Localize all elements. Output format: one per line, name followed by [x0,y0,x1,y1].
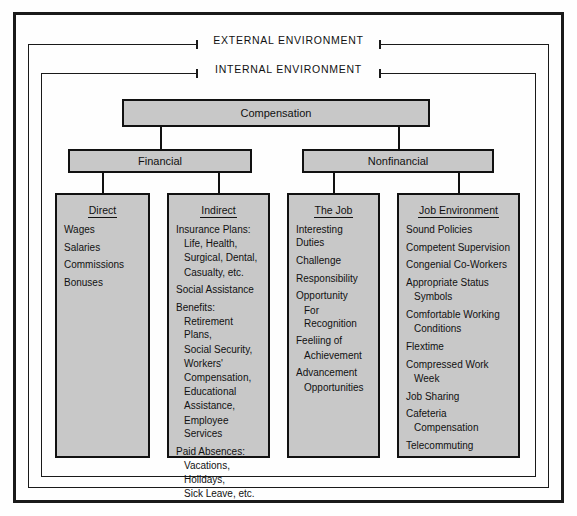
node-nonfinancial[interactable]: Nonfinancial [302,149,494,173]
connector-nonfinancial-stem [398,127,400,149]
list-item: Week [406,372,513,385]
list-item: Symbols [406,290,513,303]
list-item: Job Sharing [406,390,513,403]
list-item: Casualty, etc. [176,266,263,279]
list-item: Feeliing of [296,334,373,347]
internal-environment-label: INTERNAL ENVIRONMENT [196,63,381,75]
list-item: Insurance Plans: [176,223,263,236]
list-item: Vacations, [176,459,263,472]
list-item: Compensation [406,421,513,434]
list-item: Social Security, [176,343,263,356]
list-item: Comfortable Working [406,308,513,321]
node-compensation[interactable]: Compensation [122,99,430,127]
column-the-job-list: Interesting DutiesChallengeResponsibilit… [289,223,378,394]
column-the-job[interactable]: The Job Interesting DutiesChallengeRespo… [287,193,380,458]
column-indirect-header: Indirect [169,204,268,216]
column-the-job-header: The Job [289,204,378,216]
list-item: Appropriate Status [406,276,513,289]
column-direct-list: WagesSalariesCommissionsBonuses [57,223,148,289]
node-compensation-label: Compensation [124,101,428,125]
list-item: Employee Services [176,414,263,440]
compensation-diagram: EXTERNAL ENVIRONMENT INTERNAL ENVIRONMEN… [0,0,577,516]
list-item: Bonuses [64,276,143,289]
list-item: Telecommuting [406,439,513,452]
connector-job-environment-stem [458,173,460,193]
column-job-environment[interactable]: Job Environment Sound PoliciesCompetent … [397,193,520,458]
list-item: Interesting Duties [296,223,373,249]
list-item: Opportunity [296,289,373,302]
column-direct[interactable]: Direct WagesSalariesCommissionsBonuses [55,193,150,458]
column-job-environment-list: Sound PoliciesCompetent SupervisionConge… [399,223,518,452]
connector-direct-stem [102,173,104,193]
external-environment-label: EXTERNAL ENVIRONMENT [196,34,381,46]
list-item: Cafeteria [406,407,513,420]
list-item: Assistance, [176,399,263,412]
node-financial-label: Financial [70,151,250,171]
list-item: Holidays, [176,473,263,486]
connector-compensation-stem [160,127,162,149]
column-job-environment-header: Job Environment [399,204,518,216]
list-item: Compensation, [176,371,263,384]
list-item: Surgical, Dental, [176,251,263,264]
list-item: Retirement Plans, [176,315,263,341]
column-indirect[interactable]: Indirect Insurance Plans:Life, Health,Su… [167,193,270,458]
list-item: Sound Policies [406,223,513,236]
node-financial[interactable]: Financial [68,149,252,173]
list-item: Salaries [64,241,143,254]
list-item: Workers' [176,357,263,370]
list-item: Benefits: [176,301,263,314]
list-item: Social Assistance [176,283,263,296]
list-item: Paid Absences: [176,445,263,458]
list-item: Educational [176,385,263,398]
connector-indirect-stem [218,173,220,193]
column-indirect-list: Insurance Plans:Life, Health,Surgical, D… [169,223,268,500]
list-item: Competent Supervision [406,241,513,254]
list-item: Commissions [64,258,143,271]
list-item: Opportunities [296,381,373,394]
list-item: Congenial Co-Workers [406,258,513,271]
list-item: Advancement [296,366,373,379]
list-item: Sick Leave, etc. [176,487,263,500]
list-item: Flextime [406,340,513,353]
list-item: Life, Health, [176,237,263,250]
list-item: Conditions [406,322,513,335]
list-item: Responsibility [296,272,373,285]
connector-the-job-stem [333,173,335,193]
column-direct-header: Direct [57,204,148,216]
list-item: Compressed Work [406,358,513,371]
list-item: Achievement [296,349,373,362]
list-item: Challenge [296,254,373,267]
list-item: Wages [64,223,143,236]
list-item: For Recognition [296,304,373,330]
node-nonfinancial-label: Nonfinancial [304,151,492,171]
